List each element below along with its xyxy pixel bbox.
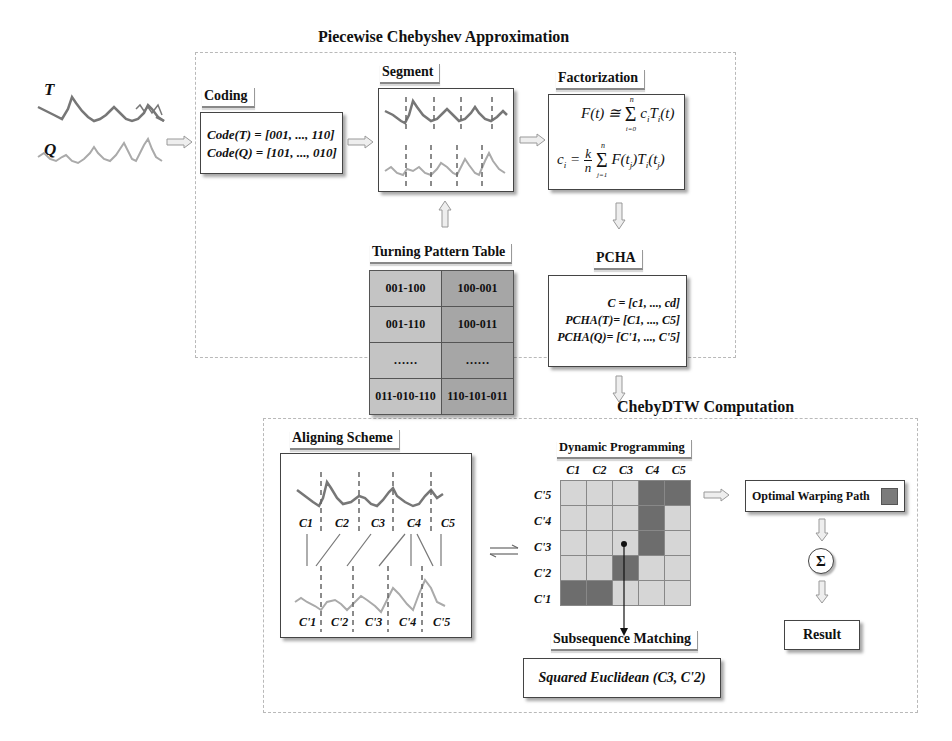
table-cell: 001-110 xyxy=(370,307,442,343)
dp-cell xyxy=(561,481,587,506)
arrow-down-icon xyxy=(612,375,626,403)
dp-row-headers: C'5 C'4 C'3 C'2 C'1 xyxy=(534,482,558,612)
pcha-line-t: PCHA(T)= [C1, ..., C5] xyxy=(565,313,680,328)
table-cell: 001-100 xyxy=(370,271,442,307)
bidirectional-arrow-icon xyxy=(488,544,520,558)
factorization-label: Factorization xyxy=(556,70,645,90)
squared-euclidean-value: Squared Euclidean (C3, C'2) xyxy=(524,659,720,697)
arrow-right-icon xyxy=(347,135,375,149)
dp-path-cell xyxy=(639,506,665,531)
pcha-box: C = [c1, ..., cd] PCHA(T)= [C1, ..., C5]… xyxy=(548,275,687,367)
subsequence-matching-label: Subsequence Matching xyxy=(551,631,698,651)
segmented-series-plot xyxy=(379,89,513,191)
coding-box: Code(T) = [001, ..., 110] Code(Q) = [101… xyxy=(200,112,343,174)
dp-cell xyxy=(639,581,665,606)
segment-label-top: C1 xyxy=(299,516,313,531)
arrow-down-icon xyxy=(815,580,829,604)
dp-cell xyxy=(613,481,639,506)
formula-chebyshev-series: F(t) ≅ Σni=0 ciTi(t) xyxy=(581,103,674,126)
subsequence-matching-box: Squared Euclidean (C3, C'2) xyxy=(523,658,721,698)
optimal-warping-path-box: Optimal Warping Path xyxy=(745,480,905,512)
dp-cell xyxy=(587,531,613,556)
segment-label-top: C2 xyxy=(335,516,349,531)
dp-cell xyxy=(665,556,691,581)
formula-coefficient: ci = kn Σnj=1 F(tj)Ti(tj) xyxy=(557,147,665,174)
table-row: …… …… xyxy=(370,343,514,379)
dp-cell xyxy=(561,506,587,531)
dp-path-cell xyxy=(639,531,665,556)
optimal-warping-path-label: Optimal Warping Path xyxy=(752,489,870,504)
table-cell: …… xyxy=(370,343,442,379)
coding-label: Coding xyxy=(202,88,255,108)
segment-label-bottom: C'3 xyxy=(365,615,382,630)
dynamic-programming-label: Dynamic Programming xyxy=(557,440,692,459)
factorization-box: F(t) ≅ Σni=0 ciTi(t) ci = kn Σnj=1 F(tj)… xyxy=(548,94,685,190)
segment-label-bottom: C'5 xyxy=(433,615,450,630)
dp-cell xyxy=(639,556,665,581)
arrow-down-icon xyxy=(815,518,829,542)
coding-line-q: Code(Q) = [101, ..., 010] xyxy=(207,145,337,161)
dp-row-header: C'3 xyxy=(534,534,558,560)
section-title-piecewise-chebyshev: Piecewise Chebyshev Approximation xyxy=(318,28,569,46)
aligning-scheme-plot xyxy=(281,454,471,637)
dp-path-cell xyxy=(639,481,665,506)
dp-column-header: C4 xyxy=(645,463,659,478)
dp-path-cell xyxy=(587,581,613,606)
dp-cell xyxy=(587,481,613,506)
segment-box xyxy=(378,88,514,192)
dp-cell xyxy=(561,556,587,581)
segment-label-top: C4 xyxy=(407,516,421,531)
table-row: 001-110 100-011 xyxy=(370,307,514,343)
dp-column-header: C1 xyxy=(566,463,580,478)
dp-grid-row xyxy=(561,506,691,531)
table-cell: …… xyxy=(442,343,514,379)
dp-grid-row xyxy=(561,481,691,506)
dp-path-cell xyxy=(665,481,691,506)
dp-column-header: C5 xyxy=(672,463,686,478)
segment-label-top: C5 xyxy=(441,516,455,531)
dp-row-header: C'2 xyxy=(534,560,558,586)
pcha-line-c: C = [c1, ..., cd] xyxy=(608,296,681,311)
dp-column-header: C3 xyxy=(619,463,633,478)
dp-row-header: C'5 xyxy=(534,482,558,508)
dp-column-headers: C1 C2 C3 C4 C5 xyxy=(560,463,692,478)
arrow-right-icon xyxy=(519,133,547,147)
match-pointer-arrow-icon xyxy=(618,540,630,640)
segment-label-bottom: C'4 xyxy=(399,615,416,630)
arrow-right-icon xyxy=(166,135,194,149)
sum-icon: Σ xyxy=(808,548,834,574)
result-box: Result xyxy=(784,620,860,650)
section-title-chebydtw: ChebyDTW Computation xyxy=(617,398,794,416)
aligning-scheme-label: Aligning Scheme xyxy=(290,430,400,450)
table-row: 011-010-110 110-101-011 xyxy=(370,379,514,415)
table-row: 001-100 100-001 xyxy=(370,271,514,307)
input-series-plot xyxy=(36,95,166,185)
aligning-scheme-box: C1 C2 C3 C4 C5 C'1 C'2 C'3 C'4 C'5 xyxy=(280,453,472,638)
dp-cell xyxy=(561,531,587,556)
table-cell: 011-010-110 xyxy=(370,379,442,415)
pcha-label: PCHA xyxy=(594,250,643,270)
dp-cell xyxy=(587,506,613,531)
segment-label-top: C3 xyxy=(371,516,385,531)
dp-row-header: C'4 xyxy=(534,508,558,534)
dp-path-cell xyxy=(561,581,587,606)
segment-label: Segment xyxy=(380,64,440,84)
coding-line-t: Code(T) = [001, ..., 110] xyxy=(207,127,335,143)
dp-column-header: C2 xyxy=(593,463,607,478)
dp-cell xyxy=(665,531,691,556)
dp-cell xyxy=(665,581,691,606)
segment-label-bottom: C'2 xyxy=(331,615,348,630)
segment-label-bottom: C'1 xyxy=(299,615,316,630)
turning-pattern-table-label: Turning Pattern Table xyxy=(370,244,512,264)
turning-pattern-table: 001-100 100-001 001-110 100-011 …… …… 01… xyxy=(369,270,514,415)
arrow-right-icon xyxy=(703,488,731,502)
dp-cell xyxy=(587,556,613,581)
arrow-up-icon xyxy=(438,200,452,228)
dp-row-header: C'1 xyxy=(534,586,558,612)
arrow-down-icon xyxy=(612,202,626,230)
dp-cell xyxy=(613,506,639,531)
pcha-line-q: PCHA(Q)= [C'1, ..., C'5] xyxy=(557,330,680,345)
path-legend-swatch xyxy=(881,488,898,505)
dp-cell xyxy=(665,506,691,531)
table-cell: 100-011 xyxy=(442,307,514,343)
